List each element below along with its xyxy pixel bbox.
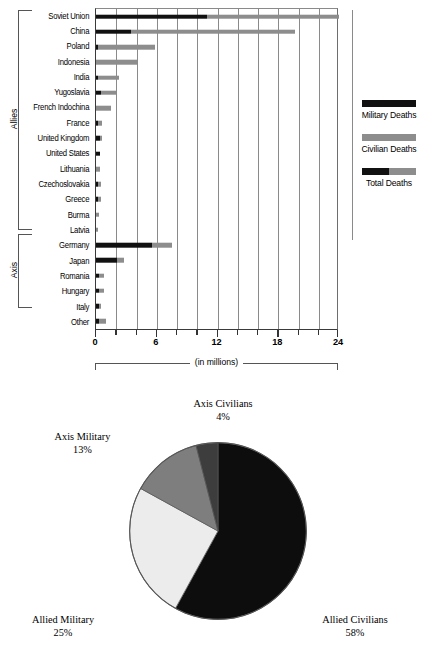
bar-segment-civilian [99, 319, 107, 324]
category-label: United States [27, 146, 92, 161]
bar-segment-civilian [98, 197, 101, 202]
category-label: Latvia [27, 223, 92, 238]
bar-row [96, 161, 337, 176]
bar-row [96, 238, 337, 253]
deaths-by-country-bar-chart: Allies Axis Soviet UnionChinaPolandIndon… [0, 0, 426, 395]
bar-segment-military [96, 151, 100, 156]
x-tick-label: 18 [272, 337, 282, 347]
bar-row [96, 222, 337, 237]
bar-row [96, 131, 337, 146]
bar-plot-area [95, 8, 338, 330]
bar-row [96, 24, 337, 39]
group-label-axis: Axis [9, 250, 19, 290]
category-label: Poland [27, 39, 92, 54]
bar-segment-civilian [100, 136, 102, 141]
x-tick-minor [318, 330, 319, 335]
pie-label-allied-civilians-name: Allied Civilians [322, 614, 388, 625]
bar-segment-military [96, 14, 207, 19]
pie-label-axis-civilians-pct: 4% [168, 410, 278, 423]
pie-label-allied-military-pct: 25% [0, 626, 128, 639]
category-label: Soviet Union [27, 8, 92, 23]
category-label: Yugoslavia [27, 85, 92, 100]
bar-segment-military [96, 243, 152, 248]
pie-label-allied-military-name: Allied Military [32, 614, 94, 625]
bar-row [96, 85, 337, 100]
category-label: Italy [27, 299, 92, 314]
bar-segment-civilian [152, 243, 172, 248]
bracket-cap-right [337, 363, 338, 370]
bar-row [96, 39, 337, 54]
bar-segment-civilian [96, 228, 98, 233]
category-label: Japan [27, 253, 92, 268]
x-tick-label: 24 [333, 337, 343, 347]
x-tick-minor [257, 330, 258, 335]
x-tick-minor [298, 330, 299, 335]
category-label: United Kingdom [27, 131, 92, 146]
x-tick-minor [176, 330, 177, 335]
bracket-line-right [243, 363, 338, 364]
legend-divider-line [352, 10, 353, 240]
legend-swatch-total-civilian-half [389, 168, 416, 175]
bar-segment-civilian [96, 212, 99, 217]
pie-label-axis-military-pct: 13% [30, 443, 135, 456]
group-label-allies: Allies [9, 99, 19, 139]
bar-row [96, 298, 337, 313]
x-axis-tick-labels: 06121824 [75, 337, 358, 351]
category-label: France [27, 115, 92, 130]
bar-segment-civilian [96, 167, 100, 172]
bar-row [96, 177, 337, 192]
bar-segment-civilian [98, 182, 101, 187]
pie-label-allied-civilians-pct: 58% [290, 626, 420, 639]
bar-segment-civilian [96, 106, 111, 111]
bar-segment-civilian [98, 121, 102, 126]
deaths-distribution-pie-chart: Axis Civilians 4% Axis Military 13% Alli… [0, 395, 426, 666]
x-tick-label: 12 [212, 337, 222, 347]
bar-row [96, 283, 337, 298]
category-label: Romania [27, 269, 92, 284]
bar-row [96, 268, 337, 283]
bar-row [96, 146, 337, 161]
category-label: Hungary [27, 284, 92, 299]
bar-segment-civilian [98, 75, 119, 80]
bar-segment-military [96, 258, 117, 263]
bar-chart-legend: Military Deaths Civilian Deaths Total De… [352, 100, 426, 202]
pie-svg [124, 437, 312, 625]
x-tick-minor [237, 330, 238, 335]
x-tick-major [95, 330, 96, 337]
bar-row [96, 9, 337, 24]
x-tick-label: 0 [93, 337, 98, 347]
bar-segment-civilian [207, 14, 339, 19]
x-tick-minor [196, 330, 197, 335]
x-axis-ticks [95, 330, 338, 337]
bar-row [96, 100, 337, 115]
bar-segment-civilian [99, 289, 104, 294]
bar-row [96, 116, 337, 131]
x-tick-minor [136, 330, 137, 335]
pie-label-axis-civilians-name: Axis Civilians [193, 398, 252, 409]
category-axis-labels: Soviet UnionChinaPolandIndonesiaIndiaYug… [22, 8, 92, 330]
pie-label-axis-military: Axis Military 13% [30, 430, 135, 456]
bar-segment-civilian [131, 30, 295, 35]
bar-row [96, 207, 337, 222]
legend-label-civilian-deaths: Civilian Deaths [352, 144, 426, 154]
legend-swatch-civilian [362, 134, 416, 141]
x-tick-label: 6 [153, 337, 158, 347]
pie-graphic [124, 437, 312, 625]
category-label: French Indochina [27, 100, 92, 115]
legend-swatch-total-military-half [362, 168, 389, 175]
legend-item-civilian-deaths: Civilian Deaths [352, 134, 426, 154]
x-axis-units-label: (in millions) [192, 357, 241, 367]
bar-segment-civilian [101, 90, 117, 95]
bar-segment-civilian [99, 304, 101, 309]
legend-item-total-deaths: Total Deaths [352, 168, 426, 188]
figure-page: Allies Axis Soviet UnionChinaPolandIndon… [0, 0, 426, 666]
bar-row [96, 253, 337, 268]
category-label: Czechoslovakia [27, 177, 92, 192]
bar-row [96, 70, 337, 85]
bar-segment-military [96, 30, 131, 35]
category-label: Indonesia [27, 54, 92, 69]
x-tick-major [156, 330, 157, 337]
category-label: Burma [27, 207, 92, 222]
category-label: Germany [27, 238, 92, 253]
bar-row [96, 55, 337, 70]
